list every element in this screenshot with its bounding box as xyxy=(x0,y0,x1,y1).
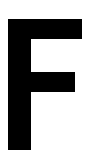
letter-f-middle-arm xyxy=(8,72,75,92)
letter-f-glyph: F xyxy=(0,0,85,168)
letter-f-top-arm xyxy=(8,19,82,39)
glyph-character: F xyxy=(0,0,1,1)
